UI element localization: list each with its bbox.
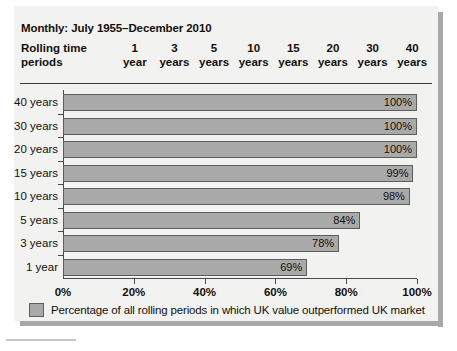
bar-value-label: 100% [384,119,412,134]
column-header-number: 30 [353,41,393,55]
panel-shadow-bottom [20,321,443,326]
bar: 100% [63,141,417,158]
plot-area: 40 years100%30 years100%20 years100%15 y… [14,90,438,280]
legend: Percentage of all rolling periods in whi… [29,303,425,317]
bar-value-label: 99% [386,166,408,181]
bar: 99% [63,165,413,182]
y-axis-tick [58,208,64,209]
y-axis-tick [58,161,64,162]
bar-row: 1 year69% [14,256,438,279]
y-axis-tick [58,114,64,115]
bar: 69% [63,259,307,276]
column-header-number: 3 [155,41,195,55]
x-axis-tick [134,279,135,284]
bar-row: 20 years100% [14,138,438,161]
column-header-30-years: 30years [353,41,393,69]
bar-category-label: 40 years [14,91,58,114]
column-header-unit: years [392,55,432,69]
column-header-unit: years [313,55,353,69]
bar-row: 5 years84% [14,209,438,232]
column-header-unit: years [155,55,195,69]
bar-value-label: 100% [384,95,412,110]
bar: 78% [63,235,339,252]
bar-value-label: 100% [384,142,412,157]
column-header-15-years: 15years [274,41,314,69]
bar-value-label: 78% [312,236,334,251]
column-header-3-years: 3years [155,41,195,69]
column-header-unit: years [353,55,393,69]
column-header-unit: years [274,55,314,69]
column-header-1-year: 1year [115,41,155,69]
y-axis-tick [58,184,64,185]
x-axis-label: 0% [55,286,72,298]
page-edge-artifact [6,339,76,341]
x-axis-tick [205,279,206,284]
bar-category-label: 5 years [14,209,58,232]
column-header-20-years: 20years [313,41,353,69]
header-divider [20,83,432,84]
y-axis-tick [58,231,64,232]
column-header-10-years: 10years [234,41,274,69]
bar: 84% [63,212,360,229]
bar-value-label: 98% [383,189,405,204]
column-header-number: 10 [234,41,274,55]
bar-category-label: 15 years [14,162,58,185]
x-axis-label: 100% [402,286,431,298]
x-axis-tick [275,279,276,284]
bar: 100% [63,94,417,111]
x-axis-label: 80% [335,286,358,298]
column-header-40-years: 40years [392,41,432,69]
bar-category-label: 20 years [14,138,58,161]
column-header-number: 20 [313,41,353,55]
column-header-number: 5 [194,41,234,55]
bar-category-label: 30 years [14,115,58,138]
column-header-number: 1 [115,41,155,55]
bar-row: 40 years100% [14,91,438,114]
bar-row: 3 years78% [14,232,438,255]
column-header-5-years: 5years [194,41,234,69]
bar-category-label: 10 years [14,185,58,208]
bar-category-label: 3 years [14,232,58,255]
x-axis-label: 20% [122,286,145,298]
bar-row: 30 years100% [14,115,438,138]
y-axis-tick [58,255,64,256]
x-axis-label: 60% [264,286,287,298]
column-header-unit: years [194,55,234,69]
column-headers: 1year3years5years10years15years20years30… [115,41,432,69]
x-axis-tick [346,279,347,284]
legend-label: Percentage of all rolling periods in whi… [51,304,425,316]
panel-shadow-right [438,12,443,327]
bar-category-label: 1 year [14,256,58,279]
bar: 98% [63,188,410,205]
column-header-unit: years [234,55,274,69]
x-axis-label: 40% [193,286,216,298]
column-header-unit: year [115,55,155,69]
bar-row: 10 years98% [14,185,438,208]
bar-value-label: 69% [280,260,302,275]
chart-title: Monthly: July 1955–December 2010 [21,22,211,34]
y-axis-tick [58,137,64,138]
chart-panel: Monthly: July 1955–December 2010 Rolling… [14,6,438,321]
column-header-number: 15 [274,41,314,55]
legend-swatch-icon [29,303,44,317]
column-header-number: 40 [392,41,432,55]
bar-value-label: 84% [333,213,355,228]
bar-row: 15 years99% [14,162,438,185]
x-axis-tick [417,279,418,284]
bar: 100% [63,118,417,135]
